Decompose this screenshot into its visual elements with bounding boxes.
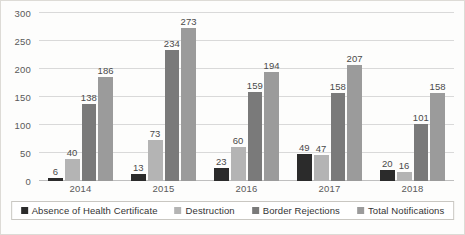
bar[interactable] [297, 154, 312, 181]
x-axis-tick-label: 2014 [39, 183, 122, 194]
bar[interactable] [314, 155, 329, 181]
legend-swatch-icon [357, 207, 364, 214]
bar-value-label: 40 [67, 147, 78, 158]
bar-slot: 20 [380, 13, 395, 181]
x-axis-tick-label: 2016 [205, 183, 288, 194]
bar-value-label: 273 [181, 16, 197, 27]
bar-slot: 138 [82, 13, 97, 181]
bar-group: 2360159194 [205, 13, 288, 181]
legend-label: Destruction [186, 205, 235, 216]
x-axis-tick-label: 2015 [122, 183, 205, 194]
legend-label: Total Notifications [368, 205, 444, 216]
chart-legend: Absence of Health CertificateDestruction… [11, 201, 455, 220]
bar-slot: 101 [414, 13, 429, 181]
y-axis-tick-label: 250 [15, 36, 31, 47]
legend-swatch-icon [252, 207, 259, 214]
bar[interactable] [65, 159, 80, 181]
bar-slot: 47 [314, 13, 329, 181]
legend-item[interactable]: Absence of Health Certificate [21, 205, 158, 216]
bar-slot: 234 [165, 13, 180, 181]
bar[interactable] [430, 93, 445, 181]
bar[interactable] [48, 178, 63, 181]
bar-slot: 194 [264, 13, 279, 181]
bar-slot: 40 [65, 13, 80, 181]
bar[interactable] [82, 104, 97, 181]
bar-value-label: 207 [347, 53, 363, 64]
bar-slot: 16 [397, 13, 412, 181]
bar-group: 640138186 [39, 13, 122, 181]
legend-label: Absence of Health Certificate [32, 205, 158, 216]
legend-swatch-icon [21, 207, 28, 214]
bar-value-label: 23 [216, 156, 227, 167]
bar[interactable] [98, 77, 113, 181]
bar[interactable] [181, 28, 196, 181]
bar-slot: 60 [231, 13, 246, 181]
legend-swatch-icon [175, 207, 182, 214]
bar[interactable] [397, 172, 412, 181]
bar-value-label: 47 [316, 143, 327, 154]
bar-value-label: 138 [81, 92, 97, 103]
bar-group: 2016101158 [371, 13, 454, 181]
y-axis-tick-label: 200 [15, 64, 31, 75]
bar[interactable] [165, 50, 180, 181]
bar-slot: 13 [131, 13, 146, 181]
bar-value-label: 234 [164, 38, 180, 49]
legend-item[interactable]: Total Notifications [357, 205, 444, 216]
bar[interactable] [131, 174, 146, 181]
y-axis-tick-label: 150 [15, 92, 31, 103]
bar[interactable] [380, 170, 395, 181]
bar-slot: 207 [347, 13, 362, 181]
bar-value-label: 159 [247, 80, 263, 91]
bar-slot: 73 [148, 13, 163, 181]
bar-slot: 186 [98, 13, 113, 181]
bar-value-label: 194 [264, 60, 280, 71]
x-axis-tick-label: 2018 [371, 183, 454, 194]
bar[interactable] [214, 168, 229, 181]
bar-group: 1373234273 [122, 13, 205, 181]
plot-area: 6401381861373234273236015919449471582072… [39, 13, 454, 181]
y-axis-tick-label: 100 [15, 120, 31, 131]
bar-value-label: 20 [382, 158, 393, 169]
bar-value-label: 158 [430, 81, 446, 92]
y-axis-tick-label: 50 [20, 148, 31, 159]
bar[interactable] [347, 65, 362, 181]
legend-item[interactable]: Destruction [175, 205, 235, 216]
bar[interactable] [331, 93, 346, 181]
bar[interactable] [148, 140, 163, 181]
y-axis-tick-label: 0 [26, 176, 31, 187]
bar-slot: 49 [297, 13, 312, 181]
bar-slot: 158 [331, 13, 346, 181]
legend-label: Border Rejections [263, 205, 340, 216]
bar-value-label: 6 [53, 166, 58, 177]
bar-group: 4947158207 [288, 13, 371, 181]
bar[interactable] [248, 92, 263, 181]
bar-slot: 158 [430, 13, 445, 181]
bar-slot: 159 [248, 13, 263, 181]
bar-value-label: 60 [233, 135, 244, 146]
legend-item[interactable]: Border Rejections [252, 205, 340, 216]
bar-chart: 050100150200250300 640138186137323427323… [0, 0, 465, 235]
bar-slot: 23 [214, 13, 229, 181]
bar-value-label: 101 [413, 112, 429, 123]
bar-value-label: 16 [399, 160, 410, 171]
bar[interactable] [414, 124, 429, 181]
bar-slot: 6 [48, 13, 63, 181]
x-axis-tick-label: 2017 [288, 183, 371, 194]
bar-groups: 6401381861373234273236015919449471582072… [39, 13, 454, 181]
bar[interactable] [231, 147, 246, 181]
bar[interactable] [264, 72, 279, 181]
bar-value-label: 186 [98, 65, 114, 76]
bar-value-label: 158 [330, 81, 346, 92]
x-axis: 20142015201620172018 [39, 183, 454, 194]
bar-value-label: 73 [150, 128, 161, 139]
bar-slot: 273 [181, 13, 196, 181]
y-axis: 050100150200250300 [1, 13, 35, 181]
y-axis-tick-label: 300 [15, 8, 31, 19]
bar-value-label: 13 [133, 162, 144, 173]
bar-value-label: 49 [299, 142, 310, 153]
